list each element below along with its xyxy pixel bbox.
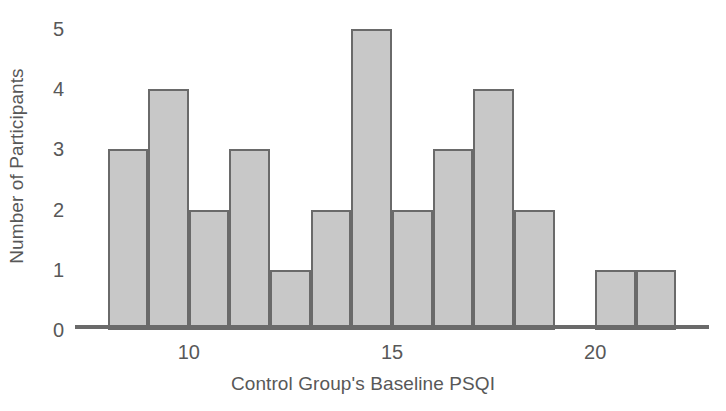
- histogram-bar: [108, 149, 149, 330]
- y-axis-tick: 2: [30, 200, 64, 220]
- histogram-bar: [270, 270, 311, 330]
- x-axis-tick: 15: [362, 340, 422, 364]
- histogram-bar: [148, 89, 189, 330]
- y-axis-tick-labels: 012345: [30, 0, 64, 411]
- histogram-bar: [311, 210, 352, 330]
- y-axis-tick: 3: [30, 139, 64, 159]
- x-axis-line: [75, 325, 709, 329]
- histogram-figure: Number of Participants 012345 101520 Con…: [0, 0, 726, 411]
- histogram-bar: [229, 149, 270, 330]
- x-axis-tick: 20: [565, 340, 625, 364]
- y-axis-tick: 5: [30, 19, 64, 39]
- y-axis-label: Number of Participants: [4, 0, 30, 336]
- histogram-bar: [433, 149, 474, 330]
- histogram-bar: [473, 89, 514, 330]
- histogram-bar: [392, 210, 433, 330]
- histogram-bar: [595, 270, 636, 330]
- x-axis-label: Control Group's Baseline PSQI: [0, 372, 726, 396]
- x-axis-tick: 10: [159, 340, 219, 364]
- histogram-bar: [351, 29, 392, 330]
- histogram-bar: [636, 270, 677, 330]
- histogram-bar: [514, 210, 555, 330]
- y-axis-tick: 0: [30, 320, 64, 340]
- histogram-bar: [189, 210, 230, 330]
- y-axis-tick: 4: [30, 79, 64, 99]
- plot-area: [75, 17, 709, 330]
- y-axis-tick: 1: [30, 260, 64, 280]
